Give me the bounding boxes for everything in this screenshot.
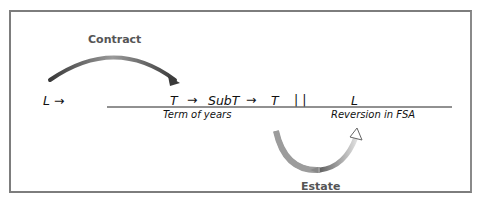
estate-arrow-icon bbox=[276, 128, 362, 173]
tenant-label-2: T bbox=[271, 93, 279, 108]
landlord-right: L bbox=[351, 93, 358, 108]
tenant-label: T bbox=[170, 93, 178, 108]
term-caption: Term of years bbox=[163, 109, 231, 120]
diagram-graphics bbox=[0, 0, 482, 204]
subtenant-label: SubT bbox=[208, 93, 239, 108]
arrow-1: → bbox=[187, 92, 197, 107]
reversion-caption: Reversion in FSA bbox=[331, 109, 415, 120]
contract-label: Contract bbox=[88, 33, 141, 46]
arrow-2: → bbox=[246, 92, 256, 107]
divider-marks: | | bbox=[294, 92, 306, 107]
estate-label: Estate bbox=[301, 180, 340, 193]
contract-arrow-icon bbox=[50, 58, 180, 87]
landlord-left: L → bbox=[43, 93, 64, 108]
